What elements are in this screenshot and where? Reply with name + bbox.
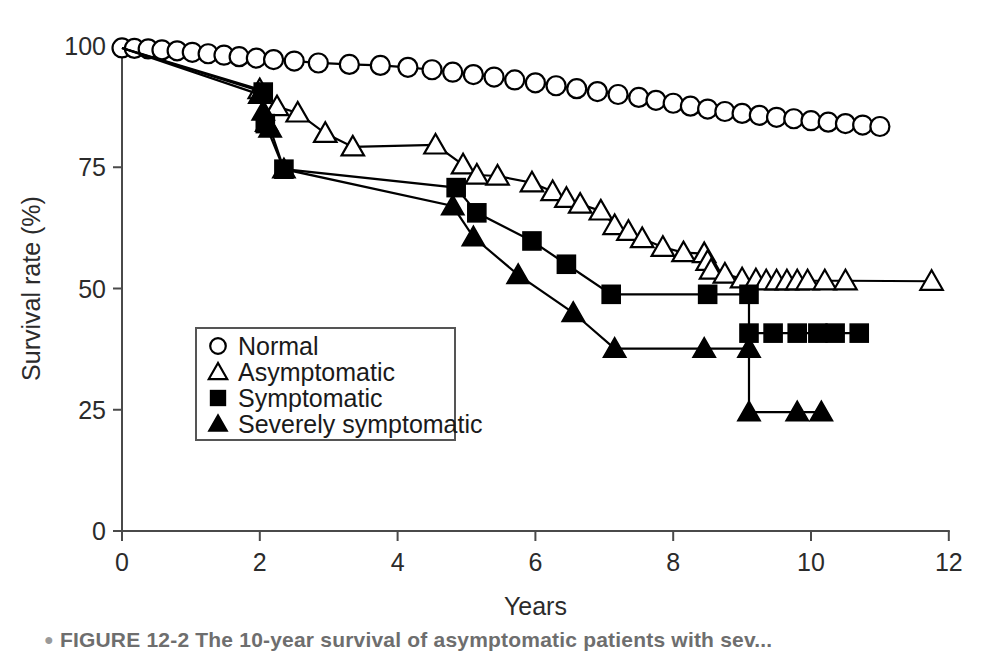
y-axis-title: Survival rate (%): [17, 196, 45, 381]
y-tick-label-50: 50: [78, 275, 106, 303]
marker-square-filled: [699, 285, 717, 303]
marker-triangle-filled: [462, 226, 484, 246]
marker-triangle-open: [834, 270, 856, 290]
marker-circle-open: [588, 82, 607, 101]
marker-circle-open: [547, 76, 566, 95]
x-tick-label-2: 2: [253, 548, 267, 576]
marker-circle-open: [733, 104, 752, 123]
marker-circle-open: [309, 53, 328, 72]
marker-circle-open: [767, 108, 786, 127]
chart-legend: NormalAsymptomaticSymptomaticSeverely sy…: [196, 328, 483, 440]
marker-circle-open: [567, 79, 586, 98]
marker-triangle-open: [652, 236, 674, 256]
figure-caption: ●FIGURE 12-2 The 10-year survival of asy…: [44, 628, 772, 652]
marker-circle-open: [715, 102, 734, 121]
marker-square-filled: [447, 179, 465, 197]
marker-circle-open: [802, 111, 821, 130]
marker-square-filled: [211, 391, 226, 406]
marker-circle-open: [609, 85, 628, 104]
marker-circle-open: [870, 117, 889, 136]
marker-circle-open: [485, 68, 504, 87]
x-tick-label-4: 4: [391, 548, 405, 576]
series-symptomatic: [122, 48, 868, 342]
marker-triangle-filled: [786, 401, 808, 421]
marker-circle-open: [464, 65, 483, 84]
marker-triangle-open: [424, 134, 446, 154]
marker-circle-open: [230, 47, 249, 66]
marker-square-filled: [764, 324, 782, 342]
marker-circle-open: [398, 58, 417, 77]
marker-circle-open: [505, 70, 524, 89]
legend-label: Symptomatic: [238, 384, 382, 412]
marker-circle-open: [784, 109, 803, 128]
marker-circle-open: [247, 49, 266, 68]
marker-triangle-open: [920, 270, 942, 290]
x-tick-label-10: 10: [797, 548, 825, 576]
marker-square-filled: [468, 204, 486, 222]
marker-circle-open: [443, 63, 462, 82]
caption-body: FIGURE 12-2 The 10-year survival of asym…: [60, 628, 772, 651]
marker-circle-open: [210, 338, 226, 354]
marker-triangle-filled: [738, 401, 760, 421]
marker-circle-open: [681, 97, 700, 116]
marker-circle-open: [629, 88, 648, 107]
y-tick-label-75: 75: [78, 153, 106, 181]
marker-square-filled: [602, 285, 620, 303]
marker-circle-open: [423, 60, 442, 79]
marker-square-filled: [557, 255, 575, 273]
legend-label: Asymptomatic: [238, 358, 395, 386]
marker-circle-open: [526, 73, 545, 92]
marker-triangle-filled: [562, 302, 584, 322]
marker-triangle-open: [814, 270, 836, 290]
marker-circle-open: [371, 56, 390, 75]
marker-triangle-filled: [693, 338, 715, 358]
marker-triangle-open: [452, 154, 474, 174]
marker-circle-open: [819, 113, 838, 132]
marker-square-filled: [788, 324, 806, 342]
marker-square-filled: [740, 285, 758, 303]
x-tick-label-8: 8: [666, 548, 680, 576]
marker-square-filled: [809, 324, 827, 342]
marker-square-filled: [523, 232, 541, 250]
marker-circle-open: [340, 55, 359, 74]
marker-square-filled: [826, 324, 844, 342]
y-tick-label-25: 25: [78, 396, 106, 424]
x-tick-label-0: 0: [115, 548, 129, 576]
marker-circle-open: [264, 50, 283, 69]
x-tick-label-12: 12: [935, 548, 963, 576]
marker-circle-open: [853, 116, 872, 135]
series-normal: [113, 38, 890, 136]
marker-square-filled: [850, 324, 868, 342]
marker-circle-open: [285, 52, 304, 71]
marker-triangle-open: [590, 200, 612, 220]
legend-item-severely-symptomatic[interactable]: Severely symptomatic: [209, 410, 483, 438]
marker-triangle-filled: [810, 401, 832, 421]
marker-circle-open: [750, 106, 769, 125]
marker-circle-open: [836, 114, 855, 133]
series-markers: [113, 38, 890, 136]
legend-label: Normal: [238, 332, 319, 360]
x-tick-label-6: 6: [528, 548, 542, 576]
marker-triangle-open: [314, 122, 336, 142]
marker-circle-open: [698, 100, 717, 119]
y-tick-label-100: 100: [64, 32, 106, 60]
marker-triangle-open: [286, 102, 308, 122]
marker-circle-open: [664, 94, 683, 113]
marker-circle-open: [646, 91, 665, 110]
x-axis-title: Years: [504, 592, 567, 620]
caption-bullet-icon: ●: [44, 631, 54, 648]
legend-label: Severely symptomatic: [238, 410, 483, 438]
y-tick-label-0: 0: [92, 517, 106, 545]
